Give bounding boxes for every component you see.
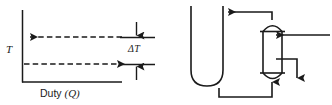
reboiler-schematic-svg: [166, 0, 332, 105]
reboiler-schematic-panel: [166, 0, 332, 105]
x-axis-label: Duty (Q): [40, 88, 80, 99]
column-u-tube: [191, 6, 223, 86]
x-axis-label-word: Duty: [40, 87, 62, 99]
x-axis-label-symbol: (Q): [65, 87, 80, 99]
vapour-return-line: [228, 12, 272, 20]
y-axis-label: T: [6, 44, 12, 55]
figure-root: T ΔT Duty (Q): [0, 0, 332, 105]
reboiler-top-head: [263, 26, 282, 32]
temperature-duty-chart-svg: [0, 0, 166, 105]
reboiler-bottom-head: [263, 73, 282, 79]
reboiler-vessel: [260, 26, 285, 79]
chart-axes: [22, 10, 122, 83]
delta-t-label: ΔT: [128, 44, 140, 54]
temperature-duty-chart-panel: T ΔT Duty (Q): [0, 0, 166, 105]
liquid-feed-line: [219, 82, 272, 97]
